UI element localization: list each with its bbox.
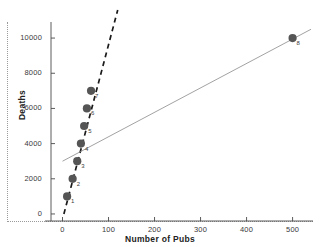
- y-tick-label: 4000: [0, 139, 42, 148]
- data-point: [77, 140, 85, 148]
- x-tick-label: 500: [277, 225, 309, 234]
- data-point-label: 5: [88, 128, 91, 134]
- data-point: [63, 192, 71, 200]
- x-axis-title: Number of Pubs: [0, 234, 320, 244]
- data-point: [83, 104, 91, 112]
- x-tick-label: 300: [185, 225, 217, 234]
- data-point: [80, 122, 88, 130]
- data-point: [73, 157, 81, 165]
- data-point: [288, 34, 296, 42]
- scatter-plot-figure: 02000400060008000100000100200300400500 1…: [0, 0, 320, 247]
- x-tick-label: 0: [47, 225, 79, 234]
- y-tick-label: 10000: [0, 33, 42, 42]
- y-tick-label: 0: [0, 209, 42, 218]
- data-point-label: 8: [297, 40, 300, 46]
- x-tick-label: 100: [93, 225, 125, 234]
- fit-line-fit-with-outlier: [63, 29, 311, 161]
- axes-group: [45, 22, 313, 221]
- data-points-group: [63, 34, 297, 201]
- data-point-label: 1: [71, 198, 74, 204]
- data-point-label: 7: [95, 93, 98, 99]
- x-tick-label: 200: [139, 225, 171, 234]
- y-axis-title: Deaths: [17, 75, 27, 135]
- data-point-label: 3: [81, 163, 84, 169]
- data-point: [87, 87, 95, 95]
- x-tick-label: 400: [231, 225, 263, 234]
- data-point-label: 2: [77, 181, 80, 187]
- plot-canvas: [0, 0, 320, 247]
- y-tick-label: 2000: [0, 174, 42, 183]
- data-point: [69, 175, 77, 183]
- data-point-label: 4: [85, 146, 88, 152]
- data-point-label: 6: [91, 110, 94, 116]
- fit-lines-group: [63, 10, 311, 214]
